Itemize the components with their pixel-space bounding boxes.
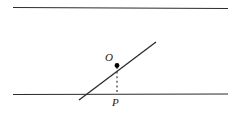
point-P-label: P	[112, 97, 119, 108]
point-O-marker	[115, 63, 120, 68]
lower-parallel-line	[13, 94, 228, 95]
point-O-label: O	[105, 52, 113, 63]
geometry-figure-svg	[0, 0, 239, 137]
upper-parallel-line	[13, 8, 228, 9]
geometry-figure-canvas: O P	[0, 0, 239, 137]
